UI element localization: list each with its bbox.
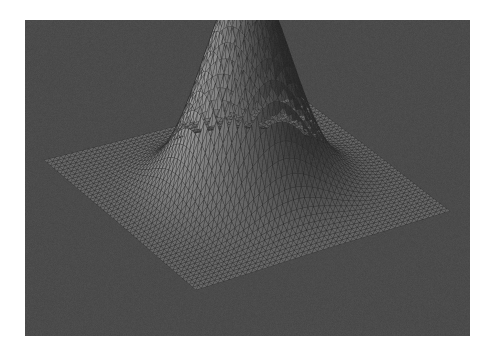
figure-root: x y z [0,0,496,356]
plot-axes-area [25,20,470,336]
surface-plot-canvas [25,20,470,336]
